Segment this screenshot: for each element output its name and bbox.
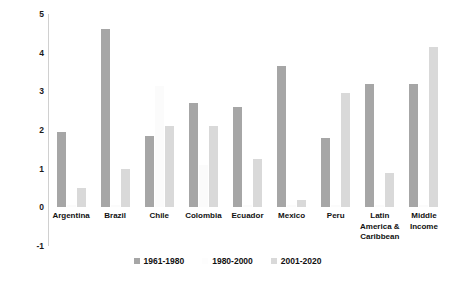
legend-label: 2001-2020	[281, 256, 322, 266]
category-label-line: Middle	[396, 211, 452, 222]
bar	[321, 138, 330, 208]
bar	[165, 126, 174, 207]
bar	[57, 132, 66, 207]
bar	[341, 93, 350, 207]
bar-group-bars	[181, 14, 225, 207]
category-label: MiddleIncome	[396, 211, 452, 232]
legend-swatch-icon	[134, 258, 140, 264]
bar-group-bars	[358, 14, 402, 207]
legend-label: 1980-2000	[212, 256, 253, 266]
y-axis-tick: 2	[32, 126, 44, 135]
bar	[409, 84, 418, 208]
bar	[419, 205, 428, 207]
legend-swatch-icon	[202, 258, 208, 264]
plot-area: 543210-1 ArgentinaBrazilChileColombiaEcu…	[48, 14, 446, 246]
bar-group-bars	[225, 14, 269, 207]
chart-legend: 1961-19801980-20002001-2020	[0, 256, 455, 266]
category-label-line: Income	[396, 222, 452, 233]
bar	[145, 136, 154, 208]
bar	[155, 86, 164, 208]
bar	[365, 84, 374, 208]
bar-group-bars	[402, 14, 446, 207]
legend-item[interactable]: 1980-2000	[202, 256, 253, 266]
bar	[253, 159, 262, 207]
bar	[189, 103, 198, 207]
bar	[429, 47, 438, 207]
y-axis-tick: 4	[32, 49, 44, 58]
bar	[101, 29, 110, 207]
bar	[233, 107, 242, 208]
bar	[277, 66, 286, 207]
bar	[67, 205, 76, 207]
bar-groups: ArgentinaBrazilChileColombiaEcuadorMexic…	[49, 14, 446, 246]
bar-group-bars	[93, 14, 137, 207]
bar	[199, 165, 208, 208]
bar	[385, 173, 394, 208]
bar-group: MiddleIncome	[402, 14, 446, 246]
bar	[209, 126, 218, 207]
category-label-line: Caribbean	[352, 232, 408, 243]
y-axis-tick: -1	[32, 242, 44, 251]
bar-group-bars	[49, 14, 93, 207]
bar	[111, 205, 120, 207]
legend-item[interactable]: 2001-2020	[271, 256, 322, 266]
y-axis-tick: 1	[32, 165, 44, 174]
bar	[121, 169, 130, 208]
bar	[243, 205, 252, 207]
bar	[375, 205, 384, 207]
bar	[297, 200, 306, 208]
legend-label: 1961-1980	[144, 256, 185, 266]
bar	[77, 188, 86, 207]
bar-group-bars	[270, 14, 314, 207]
bar-group-bars	[314, 14, 358, 207]
bar	[331, 205, 340, 207]
y-axis-tick: 3	[32, 87, 44, 96]
legend-swatch-icon	[271, 258, 277, 264]
bar	[287, 205, 296, 207]
bar-group-bars	[137, 14, 181, 207]
legend-item[interactable]: 1961-1980	[134, 256, 185, 266]
y-axis-tick: 5	[32, 10, 44, 19]
gdp-growth-bar-chart: Average GDP Growth (Percent) 543210-1 Ar…	[0, 0, 455, 284]
